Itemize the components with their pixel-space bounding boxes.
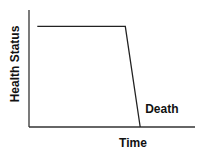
death-annotation: Death xyxy=(145,102,178,116)
x-axis-label: Time xyxy=(119,136,147,150)
y-axis-label: Health Status xyxy=(8,25,22,102)
health-trajectory-line xyxy=(37,26,140,127)
health-status-diagram: Death Time Health Status xyxy=(0,0,208,154)
